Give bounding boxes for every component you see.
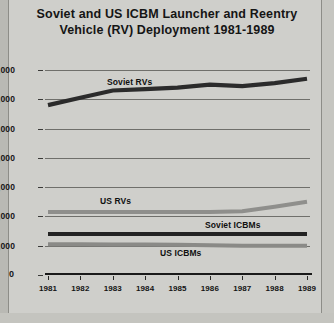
y-axis-tick-label: 6,000 [0,94,15,104]
chart-title-line-2: Vehicle (RV) Deployment 1981-1989 [14,22,320,38]
y-axis-tick-label: 1,000 [0,241,15,251]
series-label-soviet-icbms: Soviet ICBMs [205,220,261,230]
x-axis-tick-label: 1982 [63,284,97,293]
y-axis-tick-label: 2,000 [0,211,15,221]
series-line-soviet-rvs [48,79,307,105]
x-axis-tick-mark [242,276,243,280]
y-axis-tick-label: 5,000 [0,124,15,134]
x-axis-tick-label: 1983 [96,284,130,293]
page-frame-bottom-edge [0,313,334,323]
x-axis-tick-label: 1988 [258,284,292,293]
x-axis-tick-mark [113,276,114,280]
x-axis-tick-mark [210,276,211,280]
series-lines [45,70,310,275]
series-label-soviet-rvs: Soviet RVs [107,77,152,87]
x-axis-tick-label: 1986 [193,284,227,293]
x-axis-tick-mark [307,276,308,280]
y-axis-tick-label: 0 [0,269,14,279]
series-line-us-rvs [48,202,307,212]
x-axis-tick-label: 1984 [128,284,162,293]
x-axis-tick-label: 1989 [290,284,324,293]
y-axis-tick-label: 7,000 [0,65,15,75]
y-axis-tick-mark [38,246,43,247]
x-axis-tick-label: 1987 [225,284,259,293]
y-axis-tick-mark [38,129,43,130]
page-frame-right-edge [321,0,334,323]
x-axis-tick-label: 1981 [31,284,65,293]
y-axis-tick-mark [38,70,43,71]
y-axis-tick-mark [38,187,43,188]
x-axis-line [45,273,312,275]
y-axis-tick-mark [38,158,43,159]
series-label-us-icbms: US ICBMs [160,248,201,258]
plot-area: 7,0006,0005,0004,0003,0002,0001,0000 198… [45,70,310,275]
series-label-us-rvs: US RVs [100,196,131,206]
x-axis-tick-mark [145,276,146,280]
chart-page: Soviet and US ICBM Launcher and Reentry … [0,0,334,323]
x-axis-tick-mark [80,276,81,280]
x-axis-tick-mark [275,276,276,280]
x-axis-tick-mark [48,276,49,280]
chart-title-line-1: Soviet and US ICBM Launcher and Reentry [14,6,320,22]
y-axis-tick-mark [38,275,43,276]
x-axis-tick-mark [178,276,179,280]
chart-title: Soviet and US ICBM Launcher and Reentry … [14,6,320,38]
y-axis-tick-mark [38,216,43,217]
x-axis-tick-label: 1985 [161,284,195,293]
y-axis-tick-label: 4,000 [0,153,15,163]
y-axis-tick-mark [38,99,43,100]
y-axis-tick-label: 3,000 [0,182,15,192]
series-line-us-icbms [48,244,307,246]
